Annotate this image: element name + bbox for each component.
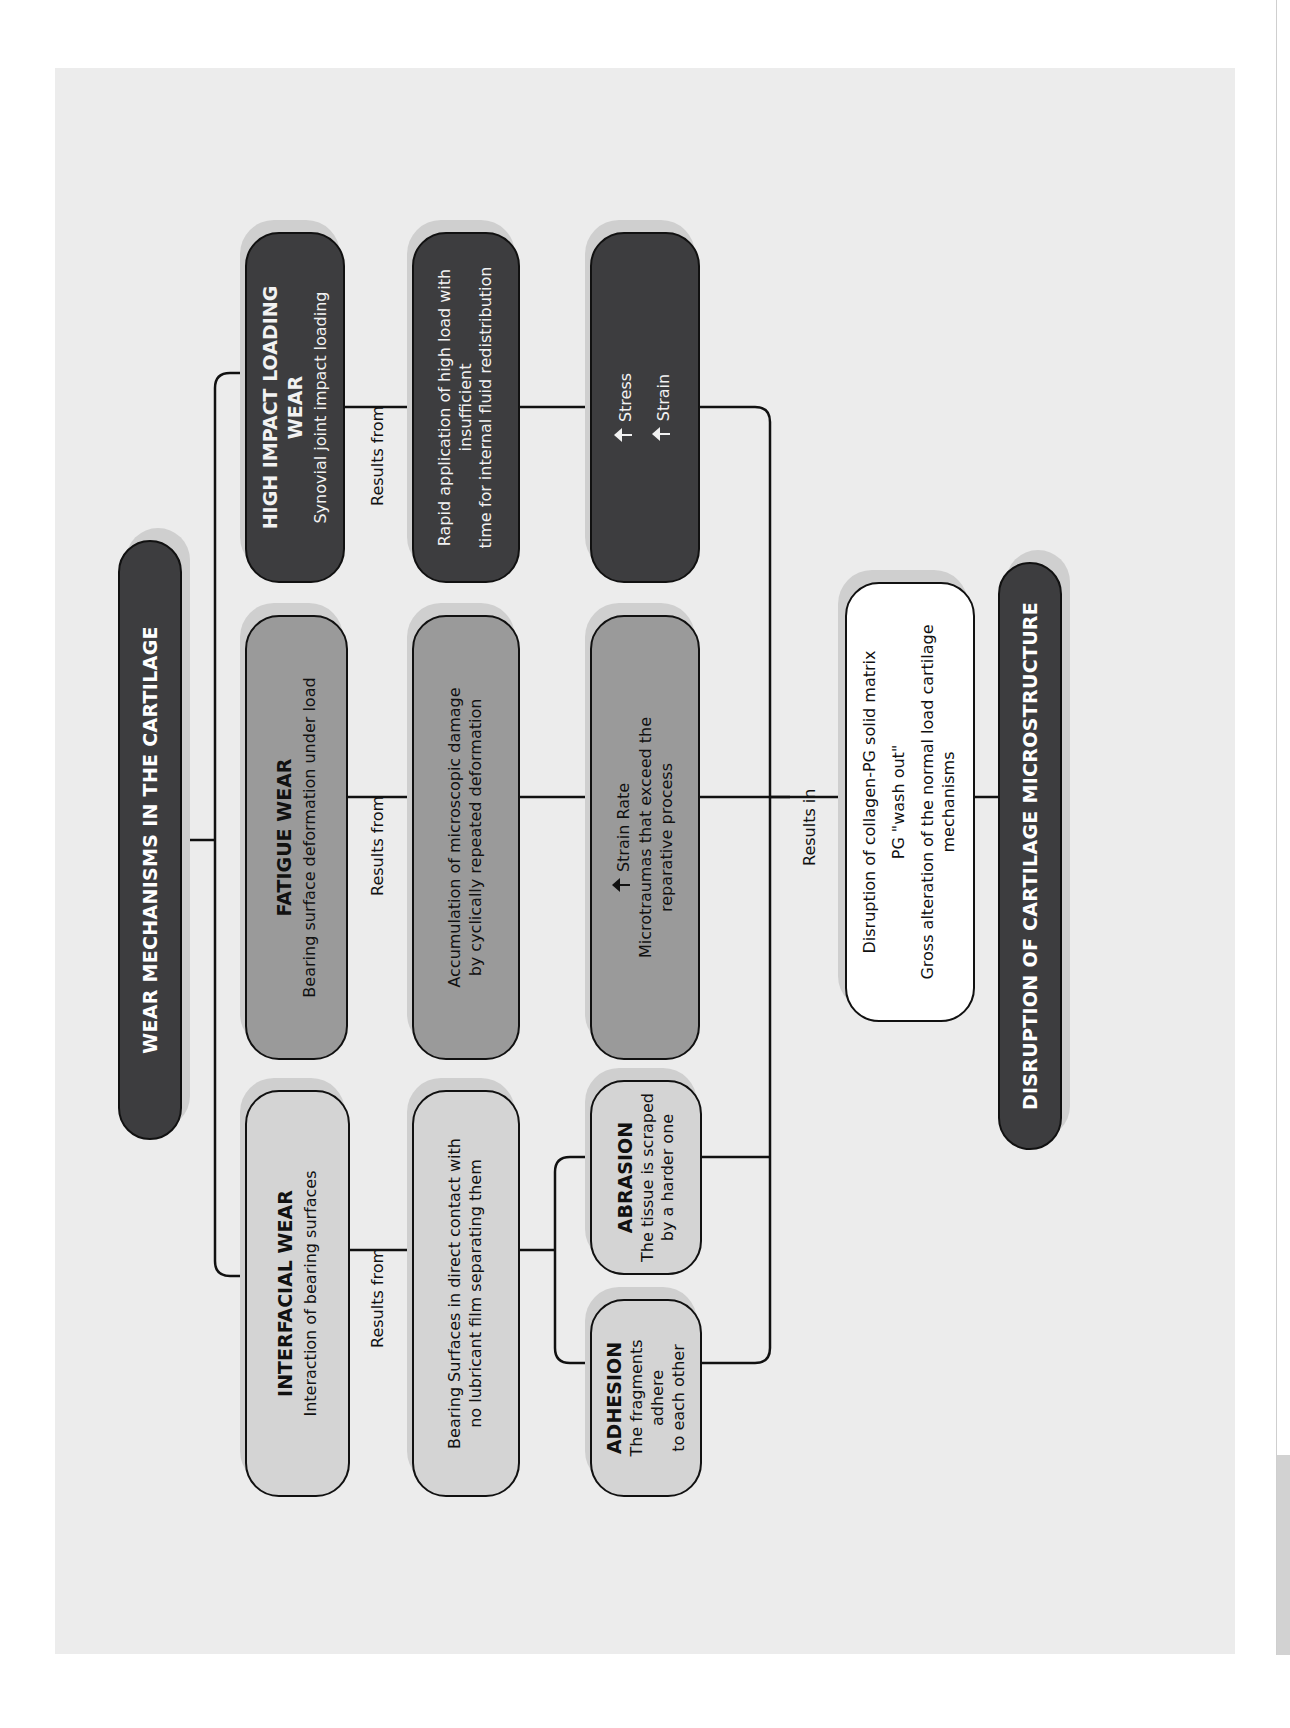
fatigue-cause-line-1: Accumulation of microscopic damage: [445, 687, 466, 987]
stress-indicator: Stress: [614, 373, 638, 442]
abrasion-line-1: The tissue is scraped: [638, 1093, 659, 1262]
interfacial-cause-box: Bearing Surfaces in direct contact with …: [412, 1090, 520, 1497]
fatigue-results-from-label: Results from: [368, 796, 387, 896]
high-impact-effect-box: Stress Strain: [590, 232, 700, 583]
final-outcome-pill: DISRUPTION OF CARTILAGE MICROSTRUCTURE: [998, 562, 1062, 1150]
rotated-diagram: WEAR MECHANISMS IN THE CARTILAGE INTERFA…: [0, 0, 1290, 1728]
fatigue-subheading: Bearing surface deformation under load: [300, 677, 321, 997]
final-outcome-text: DISRUPTION OF CARTILAGE MICROSTRUCTURE: [1018, 602, 1043, 1110]
strain-rate-label: Strain Rate: [614, 783, 635, 872]
outcome-line-3: Gross alteration of the normal load cart…: [918, 606, 960, 998]
high-impact-heading: HIGH IMPACT LOADING WEAR: [258, 256, 307, 559]
high-impact-results-from-label: Results from: [368, 406, 387, 506]
high-impact-wear-box: HIGH IMPACT LOADING WEAR Synovial joint …: [245, 232, 345, 583]
interfacial-subheading: Interaction of bearing surfaces: [301, 1170, 322, 1416]
outcome-box: Disruption of collagen-PG solid matrix P…: [845, 582, 975, 1022]
strain-indicator: Strain: [652, 374, 676, 441]
abrasion-heading: ABRASION: [613, 1122, 638, 1233]
fatigue-effect-line-2: reparative process: [657, 763, 678, 912]
high-impact-subheading: Synovial joint impact loading: [311, 291, 332, 523]
fatigue-wear-box: FATIGUE WEAR Bearing surface deformation…: [245, 615, 348, 1060]
adhesion-line-1: The fragments adhere: [627, 1311, 669, 1485]
fatigue-cause-line-2: by cyclically repeated deformation: [466, 699, 487, 977]
fatigue-effect-line-1: Microtraumas that exceed the: [636, 717, 657, 958]
interfacial-cause-line-1: Bearing Surfaces in direct contact with: [445, 1138, 466, 1449]
arrow-up-icon: [612, 878, 636, 892]
strain-label: Strain: [654, 374, 675, 421]
interfacial-wear-box: INTERFACIAL WEAR Interaction of bearing …: [245, 1090, 350, 1497]
title-text: WEAR MECHANISMS IN THE CARTILAGE: [138, 626, 163, 1054]
results-in-label: Results in: [800, 789, 819, 866]
fatigue-effect-box: Strain Rate Microtraumas that exceed the…: [590, 615, 700, 1060]
stress-label: Stress: [616, 373, 637, 422]
abrasion-box: ABRASION The tissue is scraped by a hard…: [590, 1080, 702, 1275]
diagram-title: WEAR MECHANISMS IN THE CARTILAGE: [118, 540, 182, 1140]
adhesion-heading: ADHESION: [602, 1342, 627, 1454]
high-impact-cause-line-2: time for internal fluid redistribution: [476, 267, 497, 549]
high-impact-cause-box: Rapid application of high load with insu…: [412, 232, 520, 583]
fatigue-cause-box: Accumulation of microscopic damage by cy…: [412, 615, 520, 1060]
interfacial-results-from-label: Results from: [368, 1248, 387, 1348]
high-impact-cause-line-1: Rapid application of high load with insu…: [435, 246, 477, 569]
adhesion-line-2: to each other: [669, 1344, 690, 1451]
interfacial-cause-line-2: no lubricant film separating them: [466, 1159, 487, 1428]
arrow-up-icon: [652, 427, 676, 441]
outcome-line-1: Disruption of collagen-PG solid matrix: [860, 651, 881, 954]
arrow-up-icon: [614, 428, 638, 442]
interfacial-heading: INTERFACIAL WEAR: [273, 1190, 298, 1397]
outcome-line-2: PG "wash out": [889, 745, 910, 860]
strain-rate-indicator: Strain Rate: [612, 783, 636, 892]
fatigue-heading: FATIGUE WEAR: [272, 759, 297, 917]
adhesion-box: ADHESION The fragments adhere to each ot…: [590, 1299, 702, 1497]
abrasion-line-2: by a harder one: [658, 1114, 679, 1241]
